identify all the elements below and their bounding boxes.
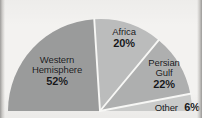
slice-label-name-line1: Africa	[98, 27, 150, 37]
slice-label-persian-gulf: Persian Gulf 22%	[136, 58, 192, 90]
slice-label-value: 6%	[184, 101, 200, 113]
slice-label-western-hemisphere: Western Hemisphere 52%	[14, 55, 100, 87]
chart-screenshot: Western Hemisphere 52% Africa 20% Persia…	[0, 0, 202, 118]
slice-label-other: Other 6%	[126, 98, 200, 115]
slice-label-value: 52%	[14, 76, 100, 87]
slice-label-value: 20%	[98, 38, 150, 49]
slice-label-africa: Africa 20%	[98, 27, 150, 49]
slice-label-name-line1: Other	[155, 102, 178, 113]
slice-label-name-line2: Gulf	[136, 68, 192, 78]
half-pie-chart: Western Hemisphere 52% Africa 20% Persia…	[0, 0, 202, 118]
slice-label-value: 22%	[136, 79, 192, 90]
slice-label-name-line2: Hemisphere	[14, 65, 100, 75]
